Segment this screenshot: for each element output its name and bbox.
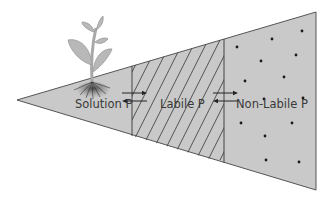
label-nonlabile-p: Non-Labile P [236, 97, 308, 111]
label-labile-p: Labile P [160, 97, 205, 111]
label-solution-p: Solution P [75, 97, 133, 111]
phosphorus-pools-diagram: Solution P Labile P Non-Labile P [0, 0, 329, 200]
plant-icon [68, 16, 112, 82]
